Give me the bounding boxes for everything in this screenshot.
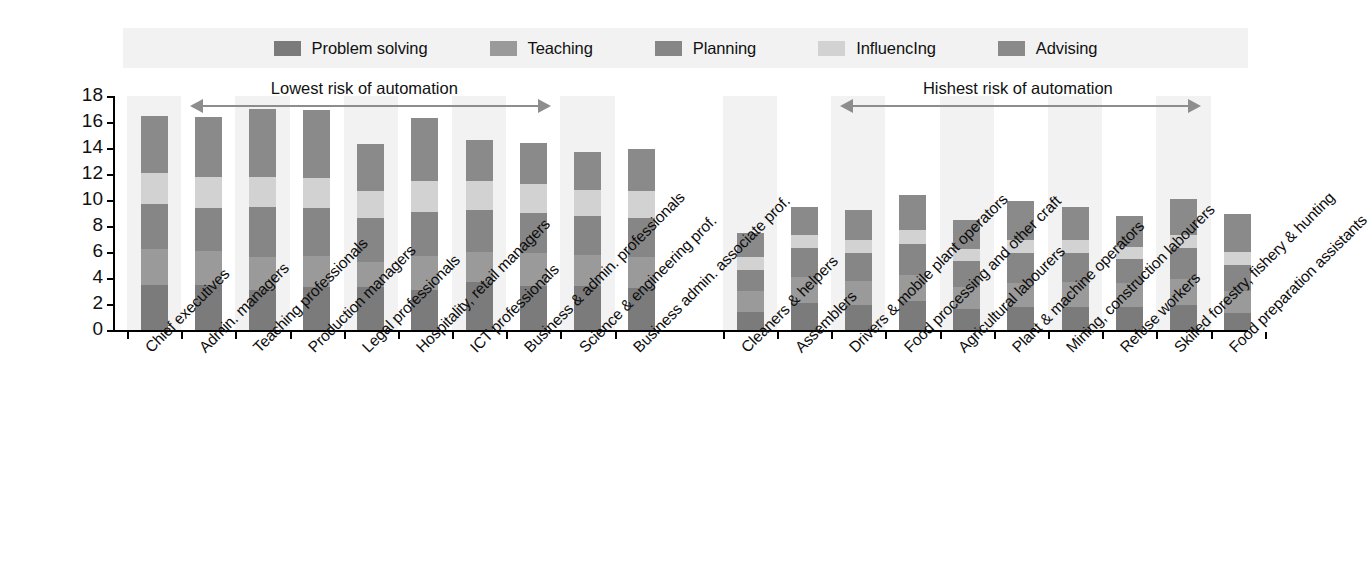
x-tick-mark xyxy=(1265,332,1267,339)
right-risk-arrow-right-arrowhead-icon xyxy=(1188,99,1201,113)
left-risk-arrow-line xyxy=(202,105,539,107)
x-category-label: Cleaners & helpers xyxy=(738,252,842,356)
right-risk-arrow-left-arrowhead-icon xyxy=(840,99,853,113)
right-risk-arrow-line xyxy=(852,105,1189,107)
x-category-label: Legal professionals xyxy=(358,251,463,356)
left-risk-arrow-left-arrowhead-icon xyxy=(190,99,203,113)
left-risk-arrow-right-arrowhead-icon xyxy=(538,99,551,113)
